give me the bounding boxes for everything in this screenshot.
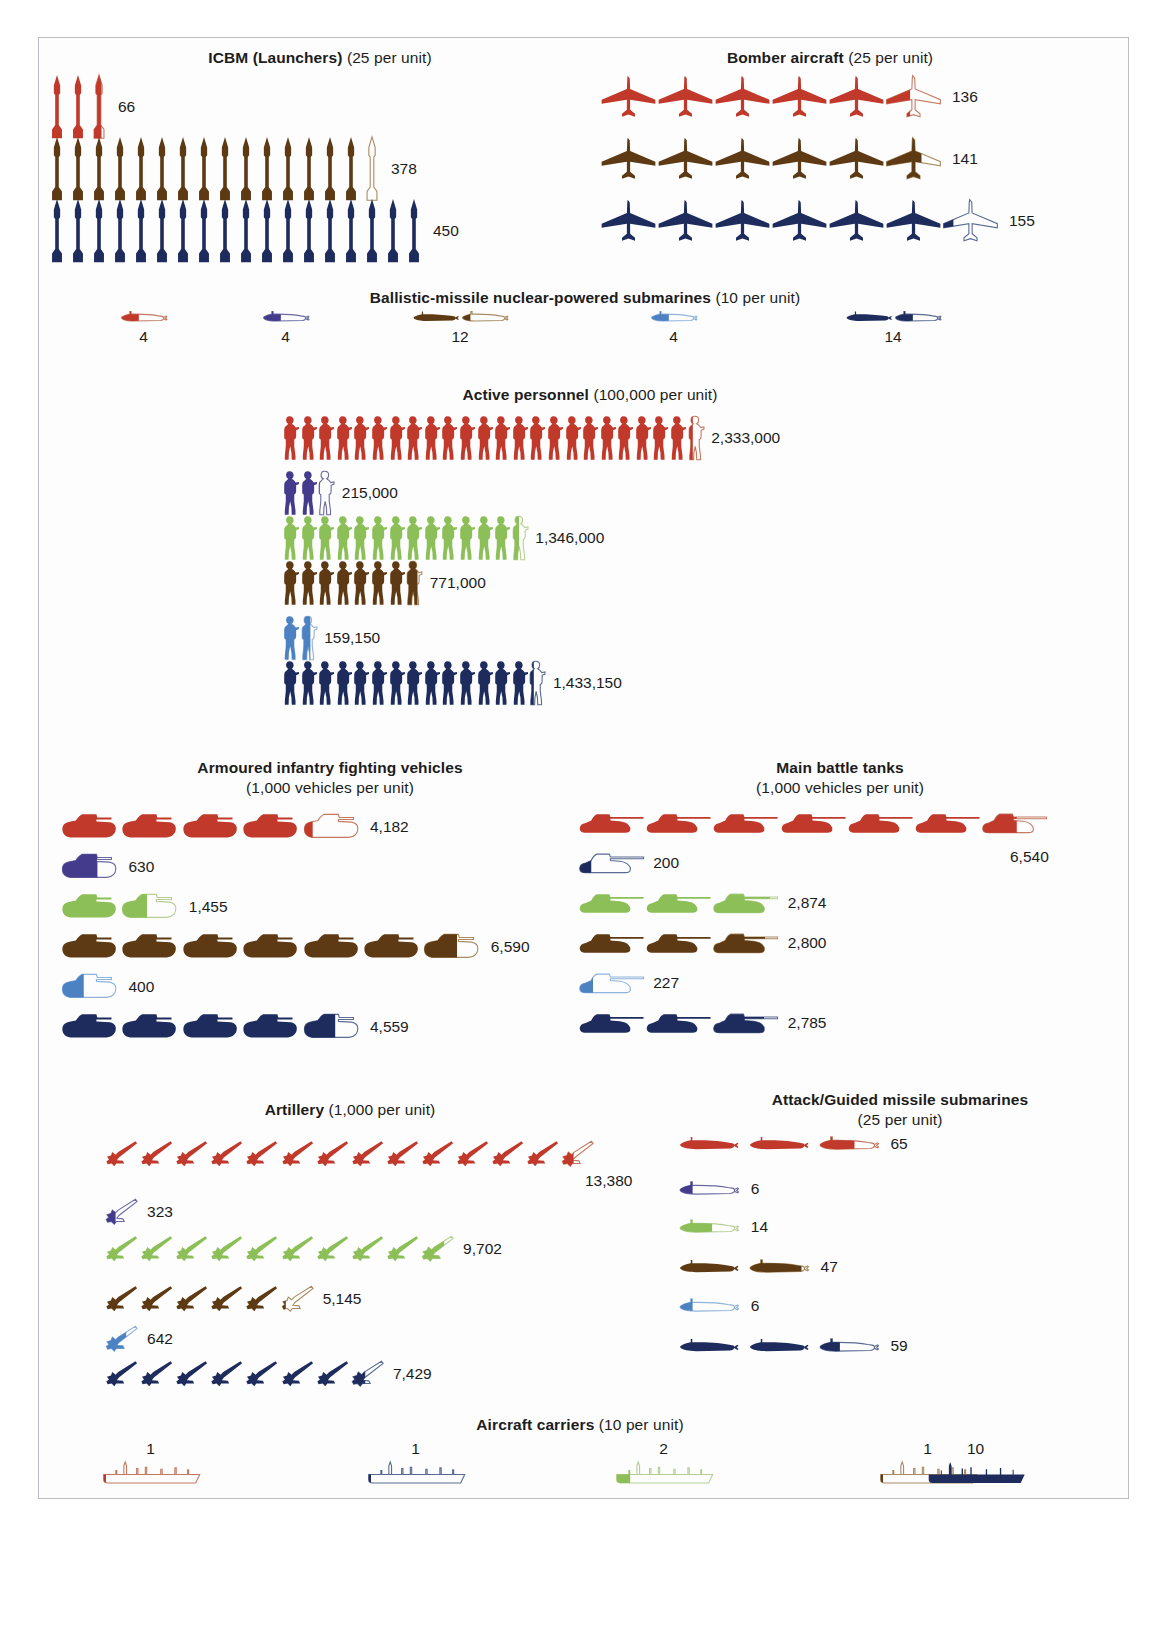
value-label-artillery-navy: 7,429 — [393, 1365, 432, 1383]
data-row-mbt-brown: 2,800 — [578, 932, 827, 954]
icon-group — [282, 560, 423, 606]
ifv-icon — [362, 932, 421, 962]
submarine-icon — [818, 1337, 879, 1355]
data-row-mbt-red: 6,540 — [578, 812, 1086, 834]
soldier-icon — [317, 415, 335, 461]
data-row-mbt-navy: 200 — [578, 852, 679, 874]
value-label-artillery-red: 13,380 — [585, 1172, 632, 1190]
tank-icon — [914, 812, 980, 834]
missile-icon — [363, 136, 381, 202]
icon-group — [105, 1198, 138, 1226]
section-title-artillery: Artillery (1,000 per unit) — [130, 1100, 570, 1120]
section-unit-ssbn: (10 per unit) — [715, 289, 800, 306]
soldier-icon — [651, 415, 669, 461]
carrier-icon — [360, 1460, 471, 1485]
section-title-carriers: Aircraft carriers (10 per unit) — [330, 1415, 830, 1435]
bomber-icon — [657, 74, 714, 120]
section-name-personnel: Active personnel — [462, 386, 589, 403]
icon-group — [60, 812, 361, 842]
howitzer-icon — [175, 1285, 208, 1313]
tank-icon — [847, 812, 913, 834]
section-name-icbm: ICBM (Launchers) — [208, 49, 342, 66]
value-label-artillery-brown: 5,145 — [323, 1290, 362, 1308]
bomber-icon — [714, 198, 771, 244]
tank-icon — [578, 812, 644, 834]
section-title-ssn: Attack/Guided missile submarines (25 per… — [690, 1090, 1110, 1131]
ifv-icon — [60, 932, 119, 962]
soldier-icon — [564, 415, 582, 461]
icon-group — [105, 1140, 595, 1168]
value-label-mbt-red: 6,540 — [1010, 848, 1049, 866]
carrier-icon — [920, 1460, 1031, 1485]
section-title-bomber: Bomber aircraft (25 per unit) — [620, 48, 1040, 68]
howitzer-icon — [175, 1235, 208, 1263]
missile-icon — [321, 198, 339, 264]
soldier-icon — [388, 415, 406, 461]
missile-icon — [90, 198, 108, 264]
icon-group — [48, 74, 108, 140]
soldier-icon — [528, 415, 546, 461]
icon-group — [578, 932, 779, 954]
section-name-artillery: Artillery — [265, 1101, 324, 1118]
bomber-icon — [600, 198, 657, 244]
missile-icon — [342, 136, 360, 202]
value-label-ssbn-0: 4 — [120, 328, 167, 346]
ifv-icon — [302, 1012, 361, 1042]
howitzer-icon — [175, 1360, 208, 1388]
howitzer-icon — [140, 1285, 173, 1313]
icon-group — [578, 812, 1048, 834]
missile-icon — [195, 198, 213, 264]
submarine-icon — [650, 310, 697, 324]
howitzer-icon — [281, 1140, 314, 1168]
ifv-icon — [120, 892, 179, 922]
soldier-icon — [599, 415, 617, 461]
icon-group — [608, 1460, 719, 1485]
data-row-icbm-navy: 450 — [48, 198, 459, 264]
icon-group — [120, 310, 167, 324]
value-label-personnel-red: 2,333,000 — [711, 429, 780, 447]
soldier-icon — [352, 415, 370, 461]
icon-group — [600, 74, 942, 120]
value-label-ssbn-3: 4 — [650, 328, 697, 346]
value-label-personnel-lightblue: 159,150 — [324, 629, 380, 647]
bomber-icon — [828, 136, 885, 182]
data-row-carriers-green: 2 — [608, 1440, 719, 1485]
icon-group — [678, 1218, 739, 1236]
icon-group — [48, 136, 381, 202]
carrier-icon — [95, 1460, 206, 1485]
value-label-personnel-navy: 1,433,150 — [553, 674, 622, 692]
submarine-icon — [678, 1135, 739, 1153]
soldier-icon — [282, 615, 300, 661]
icon-group — [578, 1012, 779, 1034]
icon-group — [60, 852, 119, 882]
soldier-icon — [352, 515, 370, 561]
soldier-icon — [511, 415, 529, 461]
icon-group — [282, 660, 546, 706]
soldier-icon — [352, 560, 370, 606]
icon-group — [678, 1135, 878, 1153]
soldier-icon — [634, 415, 652, 461]
icon-group — [578, 892, 779, 914]
data-row-artillery-red: 13,380 — [105, 1140, 642, 1168]
icon-group — [60, 972, 119, 1002]
data-row-aifv-purple: 630 — [60, 852, 154, 882]
ifv-icon — [120, 932, 179, 962]
value-label-mbt-navy: 200 — [653, 854, 679, 872]
section-unit-aifv: (1,000 vehicles per unit) — [246, 779, 414, 796]
infographic-page: ICBM (Launchers) (25 per unit) 66378450 … — [0, 0, 1168, 1627]
howitzer-icon — [105, 1140, 138, 1168]
bomber-icon — [828, 198, 885, 244]
icon-group — [105, 1235, 454, 1263]
tank-icon — [645, 892, 711, 914]
missile-icon — [300, 136, 318, 202]
carrier-icon — [608, 1460, 719, 1485]
soldier-icon — [405, 660, 423, 706]
data-row-carriers-navy: 1 — [360, 1440, 471, 1485]
missile-icon — [48, 198, 66, 264]
howitzer-icon — [105, 1360, 138, 1388]
data-row-personnel-brown: 771,000 — [282, 560, 486, 606]
icon-group — [920, 1460, 1031, 1485]
soldier-icon — [300, 615, 318, 661]
ifv-icon — [60, 1012, 119, 1042]
icon-group — [578, 852, 644, 874]
